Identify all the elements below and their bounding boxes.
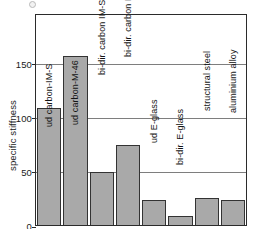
bar[interactable] [90,172,114,225]
bar-slot: ud E-glass [141,15,167,225]
bar-slot: bi-dir. carbon IM-S [89,15,115,225]
bar[interactable] [142,200,166,225]
bar-label: bi-dir. E-glass [175,109,185,165]
bar-series: ud carbon-IM-Sud carbon-M-46bi-dir. carb… [36,15,246,225]
bar-slot: aluminium alloy [220,15,246,225]
bar[interactable] [37,108,61,225]
bar-label: bi-dir. carbon IM-S [97,0,107,75]
y-axis-tick-label: 50 [4,166,32,177]
bar[interactable] [116,145,140,225]
bar-slot: ud carbon-M-46 [62,15,88,225]
plot-area: ud carbon-IM-Sud carbon-M-46bi-dir. carb… [35,14,247,226]
bar-slot: bi-dir. E-glass [167,15,193,225]
y-axis-tick-mark [32,227,36,228]
bar[interactable] [221,200,245,225]
bar-label: aluminium alloy [228,49,238,113]
y-axis-tick-label: 150 [4,58,32,69]
y-axis-tick-label: 100 [4,112,32,123]
bar-slot: ud carbon-IM-S [36,15,62,225]
bar[interactable] [63,56,87,225]
y-axis-tick-label: 0 [4,221,32,230]
bar-chart: specific stiffness 050100150 ud carbon-I… [0,0,257,229]
bar[interactable] [168,216,192,225]
bar-label: structural steel [202,51,212,111]
bar-label: bi-dir. carbon M46 [123,0,133,57]
bar[interactable] [195,198,219,225]
bar-slot: structural steel [194,15,220,225]
bar-slot: bi-dir. carbon M46 [115,15,141,225]
y-axis-tick-labels: 050100150 [0,0,32,229]
bar-label: ud E-glass [149,99,159,143]
